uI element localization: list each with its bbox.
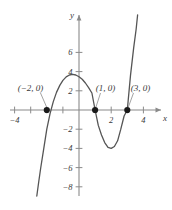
y-tick-label--6: −6 [63,163,74,173]
root-dot--2 [44,107,50,113]
y-tick-label--8: −8 [63,182,74,192]
y-tick-label--2: −2 [63,124,74,134]
y-tick-label-2: 2 [68,86,73,96]
leader-line-root--2 [41,93,47,108]
point-label-root-3: (3, 0) [131,83,151,93]
y-tick-label--4: −4 [63,143,74,153]
y-axis-label: y [69,10,74,20]
y-tick-label-6: 6 [68,47,73,57]
leader-line-root-1 [96,93,101,108]
x-tick-label-2: 2 [109,115,114,125]
cubic-graph-plot: −4 2 4 6 4 2 −2 −4 −6 −8 x y (−2, 0) (1,… [0,0,172,210]
root-dot-3 [124,107,130,113]
x-tick-label-4: 4 [141,115,146,125]
point-label-root--2: (−2, 0) [18,83,44,93]
root-dot-1 [92,107,98,113]
x-axis-arrowhead [156,108,162,113]
cubic-curve [37,15,138,196]
graph-figure: −4 2 4 6 4 2 −2 −4 −6 −8 x y (−2, 0) (1,… [0,0,172,210]
y-axis-arrowhead [77,15,82,21]
x-axis-label: x [162,113,167,123]
point-label-root-1: (1, 0) [96,83,116,93]
x-tick-label--4: −4 [10,115,21,125]
